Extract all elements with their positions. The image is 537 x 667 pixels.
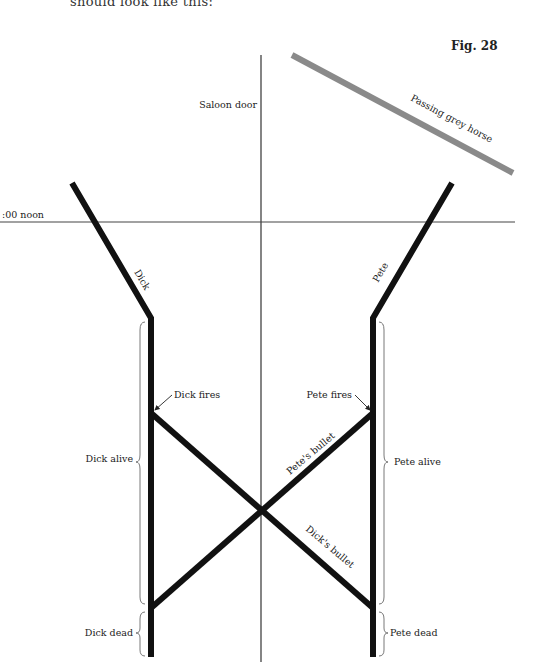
noon-label: :00 noon: [2, 209, 44, 220]
spacetime-diagram: Saloon door :00 noon Passing grey horse …: [0, 0, 537, 667]
saloon-door-label: Saloon door: [199, 99, 257, 110]
dick-fires-label: Dick fires: [174, 389, 220, 400]
pete-alive-label: Pete alive: [394, 456, 441, 467]
pete-dead-brace: [379, 612, 388, 656]
pete-worldline: [373, 183, 452, 657]
dick-fires-arrow: [155, 395, 172, 410]
dicks-bullet-label: Dick's bullet: [304, 523, 357, 570]
dick-alive-label: Dick alive: [86, 453, 134, 464]
horse-worldline: [292, 55, 513, 173]
dick-dead-label: Dick dead: [85, 627, 133, 638]
pete-fires-label: Pete fires: [307, 389, 353, 400]
horse-label: Passing grey horse: [409, 92, 495, 145]
dick-worldline: [72, 183, 151, 657]
pete-dead-label: Pete dead: [390, 627, 438, 638]
dick-dead-brace: [136, 612, 145, 656]
pete-fires-arrow: [355, 395, 370, 410]
pete-label: Pete: [370, 260, 390, 284]
pete-alive-brace: [379, 322, 388, 604]
dick-alive-brace: [136, 322, 145, 604]
